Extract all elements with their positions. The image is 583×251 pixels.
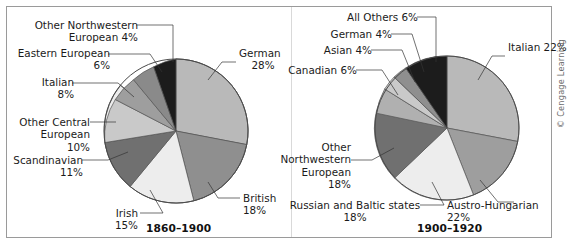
label-text: Italian bbox=[42, 76, 74, 88]
label-text-3: European bbox=[302, 166, 352, 178]
label-text: Asian 4% bbox=[324, 44, 372, 56]
caption-1900-1920: 1900–1920 bbox=[417, 222, 482, 234]
label-value: 10% bbox=[67, 141, 90, 153]
copyright-credit: © Cengage Learning bbox=[556, 18, 566, 128]
label-german-right: German 4% bbox=[250, 28, 392, 40]
label-text: Irish bbox=[116, 207, 138, 219]
label-eastern-european: Eastern European 6% bbox=[0, 47, 110, 72]
label-text: Other bbox=[321, 141, 351, 153]
label-value: 8% bbox=[58, 88, 74, 100]
label-text: Eastern European bbox=[18, 47, 110, 59]
label-value: 6% bbox=[94, 59, 110, 71]
label-text: Canadian 6% bbox=[288, 64, 357, 76]
label-text: Other Northwestern bbox=[35, 19, 138, 31]
label-value: 18% bbox=[343, 211, 366, 223]
label-text: Austro-Hungarian bbox=[447, 199, 539, 211]
label-other-central-european: Other Central European 10% bbox=[0, 116, 90, 153]
label-other-northwestern-european: Other Northwestern European 4% bbox=[0, 19, 138, 44]
label-russian-baltic: Russian and Baltic states 18% bbox=[285, 199, 425, 224]
label-value: European 4% bbox=[69, 31, 138, 43]
label-text: German 4% bbox=[331, 28, 392, 40]
label-austro-hungarian: Austro-Hungarian 22% bbox=[447, 199, 557, 224]
label-irish: Irish 15% bbox=[60, 207, 138, 232]
label-other-northwestern-european-right: Other Northwestern European 18% bbox=[250, 141, 351, 191]
label-value: 15% bbox=[115, 219, 138, 231]
label-canadian: Canadian 6% bbox=[228, 64, 357, 76]
label-value: 18% bbox=[243, 204, 266, 216]
label-text: Other Central bbox=[19, 116, 90, 128]
label-text-2: European bbox=[41, 128, 91, 140]
label-text-2: Northwestern bbox=[280, 153, 351, 165]
label-text: Russian and Baltic states bbox=[290, 199, 420, 211]
label-asian: Asian 4% bbox=[240, 44, 372, 56]
figure-container: Other Northwestern European 4% Eastern E… bbox=[0, 0, 583, 251]
label-text: British bbox=[243, 192, 276, 204]
label-italian-right: Italian 22% bbox=[508, 41, 583, 53]
label-value: 11% bbox=[60, 166, 83, 178]
label-italian-left: Italian 8% bbox=[0, 76, 74, 101]
label-text: All Others 6% bbox=[347, 11, 418, 23]
label-text: Scandinavian bbox=[13, 154, 83, 166]
caption-1860-1900: 1860–1900 bbox=[146, 222, 211, 234]
label-value: 18% bbox=[328, 178, 351, 190]
label-all-others: All Others 6% bbox=[260, 11, 418, 23]
label-scandinavian: Scandinavian 11% bbox=[0, 154, 83, 179]
